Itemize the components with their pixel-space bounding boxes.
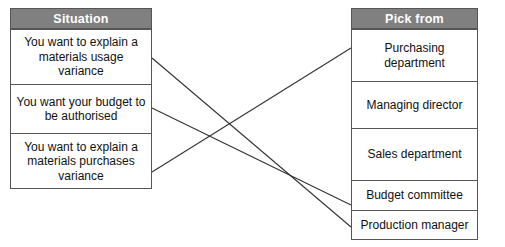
matching-exercise: Situation You want to explain a material… bbox=[0, 0, 505, 247]
situation-table-header: Situation bbox=[11, 9, 151, 29]
situation-row[interactable]: You want your budget to be authorised bbox=[11, 84, 151, 133]
pick-from-table: Pick from Purchasing department Managing… bbox=[351, 8, 478, 240]
connector-line[interactable] bbox=[152, 108, 351, 205]
situation-table: Situation You want to explain a material… bbox=[10, 8, 152, 189]
connector-line[interactable] bbox=[152, 48, 351, 172]
pick-from-option[interactable]: Managing director bbox=[352, 81, 477, 128]
pick-from-option[interactable]: Sales department bbox=[352, 128, 477, 180]
situation-row[interactable]: You want to explain a materials usage va… bbox=[11, 29, 151, 84]
pick-from-option[interactable]: Budget committee bbox=[352, 180, 477, 210]
pick-from-option[interactable]: Purchasing department bbox=[352, 29, 477, 81]
pick-from-option[interactable]: Production manager bbox=[352, 210, 477, 240]
situation-row[interactable]: You want to explain a materials purchase… bbox=[11, 133, 151, 189]
pick-from-table-header: Pick from bbox=[352, 9, 477, 29]
connector-line[interactable] bbox=[152, 58, 351, 227]
